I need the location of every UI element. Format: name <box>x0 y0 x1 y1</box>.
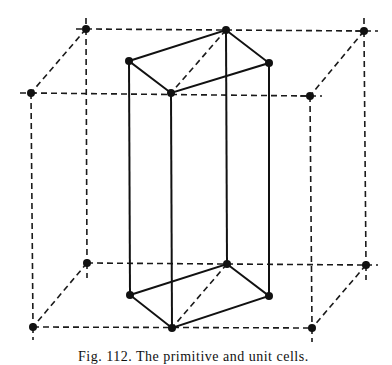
outer-dashed-cube <box>20 18 378 342</box>
lattice-points <box>27 25 370 332</box>
figure-caption: Fig. 112. The primitive and unit cells. <box>78 349 309 365</box>
inner-primitive-cell <box>129 30 269 328</box>
